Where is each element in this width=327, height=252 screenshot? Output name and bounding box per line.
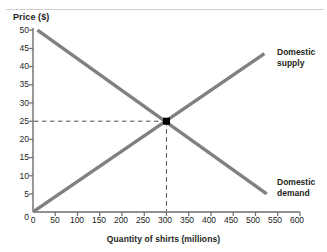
domestic-supply-curve <box>33 54 264 212</box>
supply-demand-chart: Price ($) 50 45 40 35 30 25 20 15 10 5 0… <box>0 0 327 252</box>
domestic-demand-curve <box>38 30 267 194</box>
chart-plot-area <box>0 0 327 252</box>
equilibrium-point-marker <box>163 118 170 125</box>
